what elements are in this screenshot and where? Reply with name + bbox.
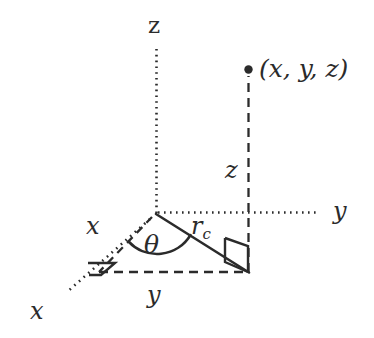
y-component-label: y: [147, 283, 161, 307]
x-axis-line: [67, 219, 150, 292]
radial-subscript: c: [202, 225, 210, 243]
x-component-label: x: [86, 214, 100, 238]
theta-arc: [129, 235, 191, 254]
x-axis-label: x: [30, 299, 44, 323]
theta-label: θ: [144, 232, 159, 257]
diagram-canvas: [0, 0, 374, 338]
z-component-label: z: [225, 158, 238, 182]
point-marker-xyz: [244, 65, 252, 73]
right-angle-marker-rc-z: [225, 238, 248, 272]
radial-symbol: r: [191, 212, 202, 240]
coordinate-diagram: z (x, y, z) z y x rc θ y x: [0, 0, 374, 338]
point-label-xyz: (x, y, z): [259, 56, 348, 81]
y-axis-label: y: [333, 199, 347, 223]
radial-label-rc: rc: [191, 214, 211, 242]
z-axis-label: z: [148, 14, 160, 37]
